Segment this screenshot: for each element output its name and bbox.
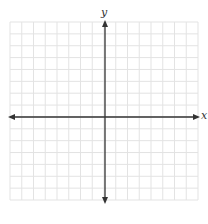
y-axis-up-arrow-icon bbox=[102, 20, 108, 27]
x-axis-label: x bbox=[201, 110, 207, 121]
x-axis-right-arrow-icon bbox=[193, 114, 200, 120]
x-axis-left-arrow-icon bbox=[8, 114, 15, 120]
y-axis-label: y bbox=[101, 7, 107, 18]
coordinate-plane bbox=[0, 0, 208, 224]
grid-lines bbox=[10, 22, 198, 200]
